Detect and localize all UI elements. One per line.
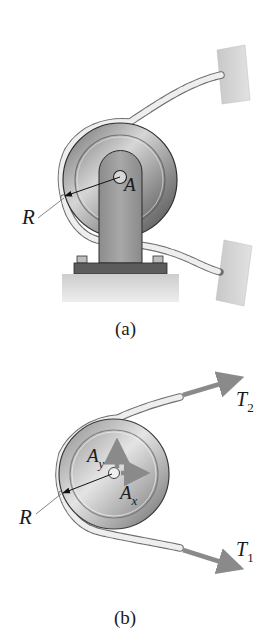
label-pin-a: A <box>124 174 136 196</box>
panel-a <box>38 45 252 306</box>
label-ay-sub: y <box>99 456 105 471</box>
bolt-left <box>77 256 87 263</box>
label-t1: T1 <box>236 538 254 561</box>
base-plate <box>74 263 167 274</box>
label-ax: Ax <box>120 482 137 504</box>
label-ax-sub: x <box>132 493 138 508</box>
caption-a: (a) <box>115 318 136 340</box>
bolt-right <box>153 256 163 263</box>
force-arrow-t1 <box>183 550 240 568</box>
diagram-canvas <box>0 0 275 634</box>
panel-b <box>36 378 240 568</box>
label-t1-main: T <box>236 538 247 560</box>
force-arrow-t2 <box>183 378 240 395</box>
label-t1-sub: 1 <box>247 550 254 565</box>
label-radius-a: R <box>22 205 35 230</box>
label-radius-b: R <box>19 505 32 530</box>
radius-leader-a <box>38 198 64 218</box>
support-bracket <box>99 151 142 264</box>
label-t2: T2 <box>236 388 254 411</box>
ground <box>62 274 179 302</box>
label-ax-main: A <box>120 482 132 503</box>
label-ay: Ay <box>87 445 104 467</box>
label-t2-sub: 2 <box>247 400 254 415</box>
caption-b: (b) <box>114 607 136 629</box>
label-t2-main: T <box>236 388 247 410</box>
radius-leader-b <box>36 494 61 514</box>
label-ay-main: A <box>87 445 99 466</box>
pin-hub <box>109 468 120 479</box>
